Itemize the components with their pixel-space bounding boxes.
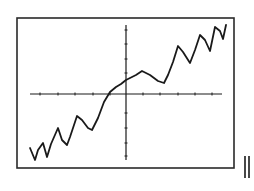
double-bar-mark [245,156,249,178]
data-curve [30,25,226,160]
chart [0,0,254,191]
